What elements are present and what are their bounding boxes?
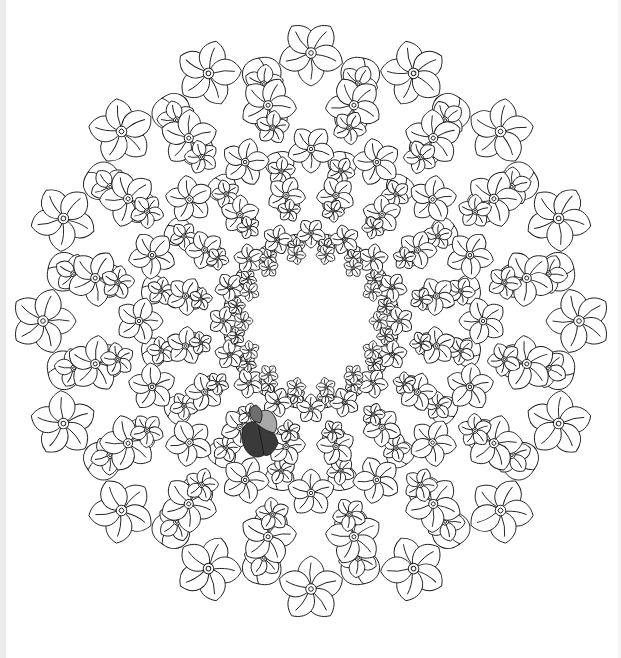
mandala-center-empty [249,259,373,383]
coloring-page: floral mandala [0,0,621,658]
floral-mandala [0,0,621,658]
